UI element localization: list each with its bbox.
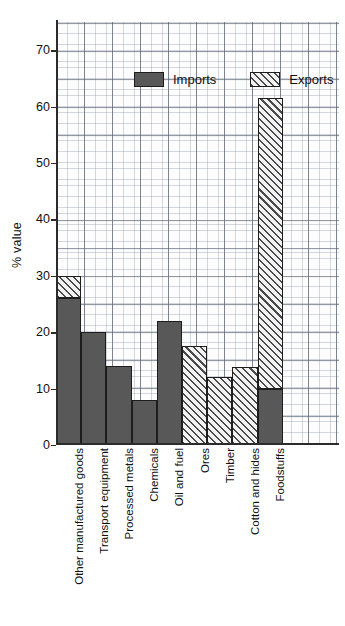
bar-segment-imports[interactable] <box>132 400 157 445</box>
x-axis-category-label: Foodstuffs <box>275 448 287 502</box>
y-axis-tick-label: 50 <box>24 157 50 170</box>
x-axis-category-label: Oil and fuel <box>174 448 186 506</box>
y-axis-tick-label: 20 <box>24 326 50 339</box>
legend-entry: Exports <box>250 72 333 87</box>
y-axis-tick-mark <box>51 163 56 164</box>
y-axis-tick-mark <box>51 219 56 220</box>
legend-swatch-imports <box>134 72 164 87</box>
y-axis-tick-mark <box>51 276 56 277</box>
x-axis-category-label: Timber <box>225 448 237 483</box>
bar-segment-exports[interactable] <box>182 346 207 445</box>
x-axis-category-label: Cotton and hides <box>250 448 262 535</box>
x-axis-category-label: Other manufactured goods <box>74 448 86 585</box>
bar-segment-exports[interactable] <box>207 377 232 445</box>
y-axis-tick-mark <box>51 445 56 446</box>
bar-segment-exports[interactable] <box>232 367 257 445</box>
bar-group[interactable] <box>56 22 81 445</box>
x-axis-category-label: Processed metals <box>124 448 136 539</box>
x-axis-category-label: Transport equipment <box>99 448 111 554</box>
x-axis-line <box>56 443 339 445</box>
y-axis-tick-mark <box>51 107 56 108</box>
y-axis-tick-label: 10 <box>24 382 50 395</box>
bar-segment-imports[interactable] <box>81 332 106 445</box>
y-axis-tick-mark <box>51 389 56 390</box>
plot-area: ImportsExports <box>56 22 339 445</box>
legend-label: Exports <box>289 72 333 87</box>
x-axis-category-label: Ores <box>200 448 212 473</box>
y-axis-tick-mark <box>51 332 56 333</box>
bar-group[interactable] <box>81 22 106 445</box>
legend-entry: Imports <box>134 72 216 87</box>
y-axis-tick-labels: 010203040506070 <box>20 0 50 626</box>
y-axis-tick-mark <box>51 50 56 51</box>
chart-legend: ImportsExports <box>134 72 333 87</box>
bar-segment-imports[interactable] <box>258 389 283 445</box>
bar-segment-imports[interactable] <box>157 321 182 445</box>
bar-chart: % value 010203040506070 ImportsExports O… <box>0 0 345 626</box>
y-axis-tick-label: 60 <box>24 100 50 113</box>
y-axis-line <box>56 20 58 445</box>
y-axis-tick-label: 0 <box>24 439 50 452</box>
bar-segment-imports[interactable] <box>56 298 81 445</box>
y-axis-tick-label: 70 <box>24 44 50 57</box>
bar-segment-exports[interactable] <box>258 98 283 388</box>
legend-label: Imports <box>173 72 216 87</box>
bar-group[interactable] <box>106 22 131 445</box>
x-axis-category-label: Chemicals <box>149 448 161 502</box>
bar-segment-exports[interactable] <box>56 276 81 299</box>
bar-segment-imports[interactable] <box>106 366 131 445</box>
x-axis-category-labels: Other manufactured goodsTransport equipm… <box>56 448 339 618</box>
legend-swatch-exports <box>250 72 280 87</box>
y-axis-tick-label: 30 <box>24 270 50 283</box>
y-axis-tick-label: 40 <box>24 213 50 226</box>
